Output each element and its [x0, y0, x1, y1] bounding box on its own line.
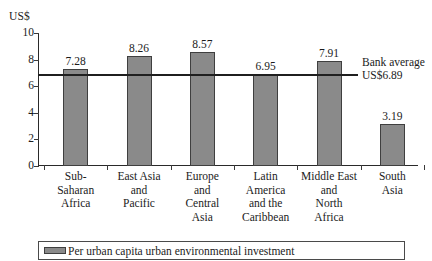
category-label-line: and the: [232, 197, 300, 211]
category-label: SouthAsia: [358, 170, 426, 197]
category-label-line: Africa: [295, 211, 363, 225]
y-axis-unit-label: US$: [9, 10, 30, 22]
y-tick-label: 6: [28, 79, 34, 91]
y-tick-mark: [34, 139, 39, 140]
bar-value-label: 3.19: [370, 110, 414, 122]
category-label: LatinAmericaand theCaribbean: [232, 170, 300, 224]
bar-value-label: 7.28: [54, 55, 98, 67]
category-label-line: Caribbean: [232, 211, 300, 225]
category-label-line: Saharan: [42, 184, 110, 198]
y-tick-mark: [34, 166, 39, 167]
legend: Per urban capita urban environmental inv…: [38, 241, 405, 260]
bank-average-line: [38, 74, 358, 76]
y-tick-label: 4: [28, 106, 34, 118]
bank-average-annotation: Bank average US$6.89: [362, 56, 425, 81]
category-label-line: Latin: [232, 170, 300, 184]
category-label-line: South: [358, 170, 426, 184]
category-label-line: and: [168, 184, 236, 198]
category-label: Middle EastandNorthAfrica: [295, 170, 363, 224]
category-label-line: Central: [168, 197, 236, 211]
bank-average-line1: Bank average: [362, 56, 425, 69]
legend-label-investment: Per urban capita urban environmental inv…: [68, 244, 294, 258]
category-label-line: Asia: [358, 184, 426, 198]
bar: [127, 56, 152, 166]
category-label-line: North: [295, 197, 363, 211]
bar-value-label: 7.91: [307, 47, 351, 59]
category-label: Sub-SaharanAfrica: [42, 170, 110, 211]
category-label-line: Middle East: [295, 170, 363, 184]
bank-average-line2: US$6.89: [362, 69, 425, 82]
category-label-line: Africa: [42, 197, 110, 211]
category-label-line: Sub-: [42, 170, 110, 184]
bar-value-label: 6.95: [244, 60, 288, 72]
y-tick-mark: [34, 33, 39, 34]
category-label-line: Europe: [168, 170, 236, 184]
y-tick-label: 8: [28, 53, 34, 65]
bar: [380, 124, 405, 166]
y-tick-mark: [34, 60, 39, 61]
y-tick-label: 2: [28, 132, 34, 144]
category-label-line: East Asia: [105, 170, 173, 184]
category-label-line: and: [105, 184, 173, 198]
bar-value-label: 8.57: [180, 38, 224, 50]
bar: [253, 74, 278, 166]
bar: [63, 69, 88, 166]
y-tick-mark: [34, 113, 39, 114]
bar: [317, 61, 342, 166]
category-label-line: America: [232, 184, 300, 198]
category-label-line: Asia: [168, 211, 236, 225]
bar-chart: US$ 0246810 7.288.268.576.957.913.19 Ban…: [0, 0, 432, 261]
category-label-line: and: [295, 184, 363, 198]
plot-area: 0246810 7.288.268.576.957.913.19: [38, 33, 418, 166]
bar-value-label: 8.26: [117, 42, 161, 54]
legend-swatch-investment: [44, 247, 66, 254]
y-tick-label: 10: [23, 26, 35, 38]
y-tick-label: 0: [28, 159, 34, 171]
category-label-line: Pacific: [105, 197, 173, 211]
y-axis-line: [38, 33, 39, 166]
category-label: East AsiaandPacific: [105, 170, 173, 211]
y-tick-mark: [34, 86, 39, 87]
category-label: EuropeandCentralAsia: [168, 170, 236, 224]
bar: [190, 52, 215, 166]
